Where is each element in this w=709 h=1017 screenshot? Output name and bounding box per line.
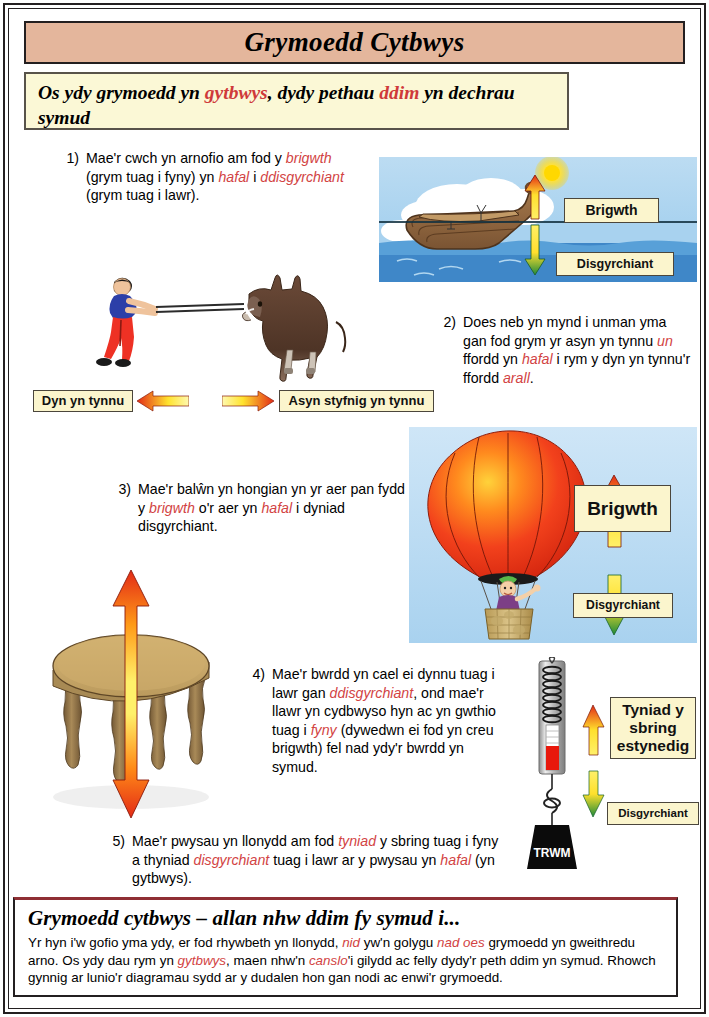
boat-disgyrchiant-label-text: Disgyrchiant xyxy=(577,257,653,271)
list-item-5-text: Mae'r pwysau yn llonydd am fod tyniad y … xyxy=(132,832,503,888)
spring-weight-illustration: TRWM xyxy=(521,657,611,892)
list-item-1-number: 1) xyxy=(57,149,79,168)
subtitle-part-1: Os ydy grymoedd yn xyxy=(38,82,205,103)
summary-text: Yr hyn i'w gofio yma ydy, er fod rhywbet… xyxy=(28,934,664,987)
list-item-2-text: Does neb yn mynd i unman yma gan fod gry… xyxy=(463,313,692,387)
subtitle-text: Os ydy grymoedd yn gytbwys, dydy pethau … xyxy=(38,80,557,130)
spring-gravity-label-text: Disgyrchiant xyxy=(618,807,688,820)
list-item-1-text: Mae'r cwch yn arnofio am fod y brigwth (… xyxy=(86,149,347,205)
table-illustration xyxy=(31,562,231,827)
poster-content: Grymoedd Cytbwys Os ydy grymoedd yn gytb… xyxy=(9,9,700,1008)
donkey-pull-label: Asyn styfnig yn tynnu xyxy=(279,390,434,412)
hot-air-balloon-icon xyxy=(428,431,586,639)
spring-tension-label-text: Tyniad y sbring estynedig xyxy=(617,701,689,756)
rope-icon xyxy=(156,304,244,312)
summary-heading: Grymoedd cytbwys – allan nhw ddim fy sym… xyxy=(28,906,664,931)
donkey-pull-arrow xyxy=(222,390,274,412)
summary-box: Grymoedd cytbwys – allan nhw ddim fy sym… xyxy=(13,897,678,997)
subtitle-box: Os ydy grymoedd yn gytbwys, dydy pethau … xyxy=(24,72,569,130)
subtitle-part-2: , dydy pethau xyxy=(268,82,380,103)
list-item-3-number: 3) xyxy=(109,480,131,499)
balloon-brigwth-label-text: Brigwth xyxy=(587,498,658,519)
balloon-brigwth-label: Brigwth xyxy=(574,485,671,532)
list-item-5-number: 5) xyxy=(103,832,125,851)
list-item-4-number: 4) xyxy=(243,665,265,684)
boat-disgyrchiant-label: Disgyrchiant xyxy=(556,252,674,276)
scale-reading xyxy=(546,746,559,770)
donkey-pull-label-text: Asyn styfnig yn tynnu xyxy=(289,394,425,409)
page-title: Grymoedd Cytbwys xyxy=(244,27,464,58)
list-item-2-number: 2) xyxy=(434,313,456,332)
spring-gravity-arrow xyxy=(583,771,604,817)
man-pull-label-text: Dyn yn tynnu xyxy=(42,394,124,409)
list-item-2: 2) Does neb yn mynd i unman yma gan fod … xyxy=(434,313,692,387)
subtitle-accent-2: ddim xyxy=(379,82,419,103)
boat-brigwth-label: Brigwth xyxy=(564,198,659,223)
list-item-3: 3) Mae'r balŵn yn hongian yn yr aer pan … xyxy=(109,480,409,536)
list-item-4: 4) Mae'r bwrdd yn cael ei dynnu tuag i l… xyxy=(243,665,508,777)
weight-label: TRWM xyxy=(533,846,570,860)
spring-gravity-label: Disgyrchiant xyxy=(607,802,699,825)
spring-tension-label: Tyniad y sbring estynedig xyxy=(610,697,696,759)
man-pull-label: Dyn yn tynnu xyxy=(33,390,133,412)
list-item-4-text: Mae'r bwrdd yn cael ei dynnu tuag i lawr… xyxy=(272,665,508,777)
list-item-5: 5) Mae'r pwysau yn llonydd am fod tyniad… xyxy=(103,832,503,888)
spring-tension-arrow xyxy=(583,705,604,755)
man-pull-arrow xyxy=(137,390,189,412)
donkey-tug-illustration xyxy=(54,264,384,389)
subtitle-accent-1: gytbwys xyxy=(205,82,268,103)
page-title-bar: Grymoedd Cytbwys xyxy=(24,21,685,64)
balloon-disgyrchiant-label-text: Disgyrchiant xyxy=(586,599,660,613)
boat-brigwth-label-text: Brigwth xyxy=(585,203,637,219)
donkey-icon xyxy=(242,275,345,381)
poster-page: Grymoedd Cytbwys Os ydy grymoedd yn gytb… xyxy=(0,0,709,1017)
list-item-1: 1) Mae'r cwch yn arnofio am fod y brigwt… xyxy=(57,149,347,205)
balloon-disgyrchiant-label: Disgyrchiant xyxy=(573,593,673,618)
hook-icon xyxy=(547,789,557,813)
list-item-3-text: Mae'r balŵn yn hongian yn yr aer pan fyd… xyxy=(138,480,409,536)
man-icon xyxy=(96,278,155,367)
